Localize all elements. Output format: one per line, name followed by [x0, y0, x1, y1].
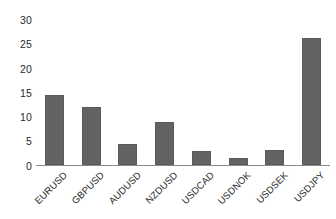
y-tick-label-15: 15: [6, 88, 32, 99]
y-tick-label-10: 10: [6, 112, 32, 123]
bar-chart: 30 25 20 15 10 5 0: [0, 0, 336, 219]
y-tick-label-5: 5: [6, 136, 32, 147]
x-tick-label-gbpusd: GBPUSD: [70, 170, 106, 206]
bar-slot-nzdusd: [146, 14, 183, 165]
x-tick-label-audusd: AUDUSD: [107, 170, 143, 206]
bar-eurusd[interactable]: [45, 95, 64, 164]
bar-slot-usdsek: [257, 14, 294, 165]
bar-usdsek[interactable]: [265, 150, 284, 165]
bar-slot-gbpusd: [73, 14, 110, 165]
x-axis-line: [36, 165, 330, 166]
bar-slot-usdcad: [183, 14, 220, 165]
y-tick-label-25: 25: [6, 39, 32, 50]
bar-audusd[interactable]: [118, 144, 137, 165]
y-tick-label-0: 0: [6, 161, 32, 172]
bar-usdcad[interactable]: [192, 151, 211, 165]
x-tick-label-usdjpy: USDJPY: [292, 170, 326, 204]
x-tick-label-usdnok: USDNOK: [217, 170, 253, 206]
x-axis: EURUSD GBPUSD AUDUSD NZDUSD USDCAD USDNO…: [36, 168, 330, 219]
x-tick-label-eurusd: EURUSD: [33, 170, 69, 206]
bar-slot-eurusd: [36, 14, 73, 165]
bar-usdjpy[interactable]: [302, 38, 321, 165]
y-tick-label-20: 20: [6, 64, 32, 75]
bar-gbpusd[interactable]: [82, 107, 101, 165]
x-tick-label-usdsek: USDSEK: [255, 170, 290, 205]
plot-area: [36, 14, 330, 166]
x-tick-label-nzdusd: NZDUSD: [144, 170, 179, 205]
x-tick-label-usdcad: USDCAD: [180, 170, 216, 206]
y-axis: 30 25 20 15 10 5 0: [6, 0, 32, 219]
bar-slot-usdnok: [220, 14, 257, 165]
bar-slot-audusd: [110, 14, 147, 165]
bar-slot-usdjpy: [293, 14, 330, 165]
bar-nzdusd[interactable]: [155, 122, 174, 164]
y-tick-label-30: 30: [6, 15, 32, 26]
